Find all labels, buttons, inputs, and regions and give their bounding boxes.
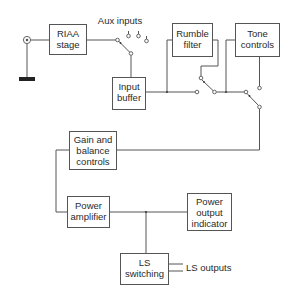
- power-output-indicator-block: Power output indicator: [188, 194, 232, 231]
- input-selector-switch: [116, 38, 133, 55]
- gain-label-line1: Gain and: [74, 134, 113, 145]
- input-jack: [23, 36, 30, 43]
- ls-switching-label-line2: switching: [125, 268, 164, 279]
- aux-inputs-label: Aux inputs: [98, 15, 143, 26]
- ground-icon: [19, 77, 35, 81]
- rumble-label-line2: filter: [184, 39, 202, 50]
- ls-output-wires: [169, 264, 184, 271]
- input-buffer-block: Input buffer: [113, 78, 146, 110]
- tone-switch-to-gain-wire: [116, 109, 260, 150]
- tone-controls-block: Tone controls: [236, 24, 280, 57]
- power-amplifier-block: Power amplifier: [68, 197, 110, 228]
- riaa-stage-block: RIAA stage: [50, 25, 87, 55]
- tone-bypass-switch: [244, 86, 261, 109]
- rumble-label-line1: Rumble: [176, 28, 209, 39]
- indicator-label-line3: indicator: [192, 218, 228, 229]
- gain-label-line3: controls: [76, 156, 110, 167]
- indicator-label-line1: Power: [196, 196, 223, 207]
- input-buffer-label-line1: Input: [118, 81, 139, 92]
- tone-label-line2: controls: [241, 39, 275, 50]
- ls-switching-block: LS switching: [121, 254, 169, 285]
- buffer-to-rumble-wire: [167, 40, 172, 92]
- riaa-label-line2: stage: [56, 39, 79, 50]
- rumble-bypass-switch: [195, 76, 216, 94]
- input-buffer-label-line2: buffer: [117, 92, 141, 103]
- gain-label-line2: balance: [76, 145, 109, 156]
- rumble-filter-block: Rumble filter: [173, 24, 213, 57]
- ls-switching-label-line1: LS: [139, 257, 151, 268]
- gain-balance-block: Gain and balance controls: [70, 132, 117, 170]
- ls-outputs-label: LS outputs: [186, 262, 232, 273]
- amplifier-block-diagram: RIAA stage Aux inputs Input buffer Rumbl…: [0, 0, 288, 293]
- riaa-label-line1: RIAA: [57, 28, 80, 39]
- indicator-label-line2: output: [196, 207, 223, 218]
- power-amp-label-line2: amplifier: [71, 211, 107, 222]
- tone-label-line1: Tone: [247, 28, 268, 39]
- aux-input-contacts: [127, 31, 149, 43]
- power-amp-label-line1: Power: [75, 200, 102, 211]
- to-tone-wire: [226, 40, 235, 92]
